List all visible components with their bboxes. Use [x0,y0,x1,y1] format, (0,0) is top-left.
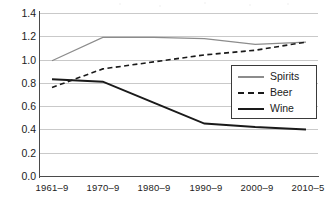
legend: Spirits Beer Wine [231,65,317,119]
line-chart: 1.4 1.2 1.0 0.8 0.6 0.4 0.2 0.0 1961–9 1… [0,0,325,203]
legend-label-spirits: Spirits [270,69,299,83]
legend-item-beer: Beer [238,84,312,100]
legend-item-spirits: Spirits [238,68,312,84]
legend-item-wine: Wine [238,100,312,116]
series-line-spirits [52,37,306,60]
legend-label-beer: Beer [270,85,292,99]
legend-swatch-beer-icon [238,92,264,94]
legend-label-wine: Wine [270,101,294,115]
legend-swatch-spirits-icon [238,76,264,78]
legend-swatch-wine-icon [238,108,264,110]
